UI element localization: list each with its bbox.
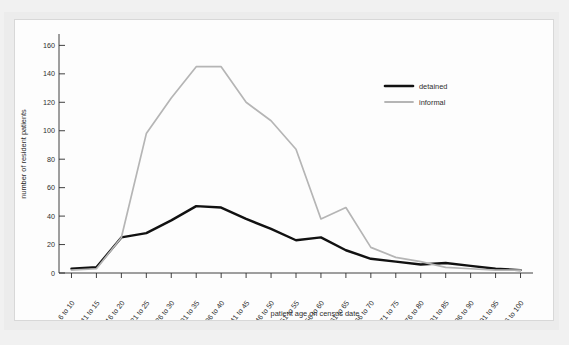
y-tick-label: 120 [43,98,55,107]
x-tick-label: 21 to 25 [128,299,151,320]
y-axis-ticks: 020406080100120140160 [43,41,65,278]
x-tick-label: 81 to 85 [428,299,451,320]
x-tick-label: 91 to 95 [478,299,501,320]
plot-panel: 020406080100120140160 6 to 1011 to 1516 … [14,19,554,321]
y-tick-label: 100 [43,126,55,135]
legend-label-detained: detained [419,82,447,91]
line-chart-canvas: 020406080100120140160 6 to 1011 to 1516 … [15,20,553,320]
y-tick-label: 40 [47,212,55,221]
y-tick-label: 160 [43,41,55,50]
x-tick-label: 16 to 20 [103,299,126,320]
x-tick-label: 71 to 75 [378,299,401,320]
y-tick-label: 20 [47,240,55,249]
y-tick-label: 140 [43,69,55,78]
y-axis-title: number of resident patients [19,109,28,199]
series-group [71,67,520,270]
x-tick-label: 96 to 100 [500,299,526,320]
x-tick-label: 76 to 80 [403,299,426,320]
x-tick-label: 41 to 45 [228,299,251,320]
x-tick-label: 36 to 40 [203,299,226,320]
chart-figure: 020406080100120140160 6 to 1011 to 1516 … [0,0,569,345]
x-tick-label: 26 to 30 [153,299,176,320]
x-tick-label: 31 to 35 [178,299,201,320]
series-line-detained [71,206,520,270]
chart-legend: detained informal [385,82,447,107]
x-axis-title: patient age on census date [271,309,360,318]
x-tick-label: 11 to 15 [79,299,102,320]
legend-label-informal: informal [419,98,446,107]
x-tick-label: 6 to 10 [56,299,77,320]
y-tick-label: 0 [51,269,55,278]
y-tick-label: 60 [47,183,55,192]
y-tick-label: 80 [47,155,55,164]
x-tick-label: 86 to 90 [453,299,476,320]
